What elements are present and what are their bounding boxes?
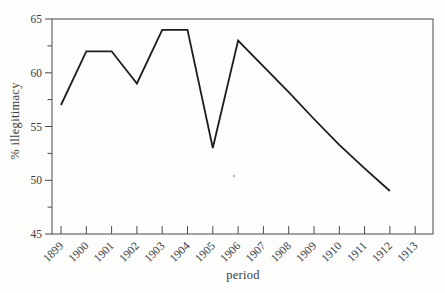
x-tick-label: 1909 <box>294 239 319 264</box>
x-tick-label: 1900 <box>66 239 91 264</box>
y-tick-label: 50 <box>31 174 43 186</box>
y-tick-label: 60 <box>31 67 43 79</box>
y-axis-title: % illegitimacy <box>8 82 23 159</box>
x-tick-label: 1903 <box>142 239 167 264</box>
x-tick-label: 1913 <box>395 239 420 264</box>
y-tick-label: 55 <box>31 121 43 133</box>
x-tick-label: 1907 <box>243 239 268 264</box>
x-tick-label: 1911 <box>345 239 370 264</box>
x-tick-label: 1912 <box>370 239 395 264</box>
x-tick-label: 1901 <box>91 239 116 264</box>
y-tick-label: 65 <box>31 13 43 25</box>
x-tick-label: 1899 <box>41 239 66 264</box>
x-tick-label: 1902 <box>117 239 142 264</box>
x-tick-label: 1910 <box>319 239 344 264</box>
x-axis-title: period <box>226 268 260 283</box>
data-line <box>61 30 390 191</box>
x-tick-label: 1906 <box>218 239 243 264</box>
x-tick-label: 1908 <box>268 239 293 264</box>
illegitimacy-line-chart-figure: 1899190019011902190319041905190619071908… <box>0 0 445 293</box>
x-tick-label: 1905 <box>192 239 217 264</box>
scan-speck <box>233 175 235 177</box>
x-tick-label: 1904 <box>167 239 192 264</box>
chart-svg: 1899190019011902190319041905190619071908… <box>0 0 445 293</box>
y-tick-label: 45 <box>31 228 43 240</box>
